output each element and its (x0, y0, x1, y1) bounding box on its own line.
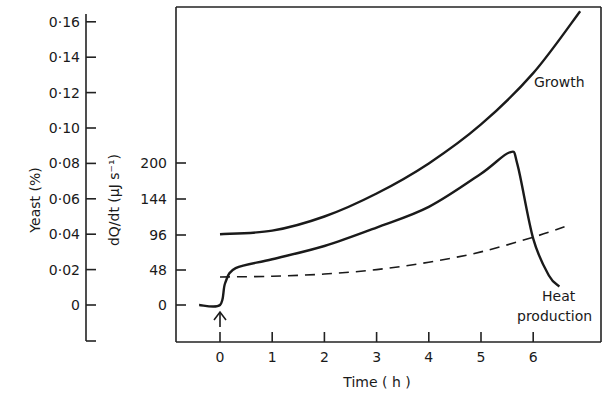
time-tick-label: 4 (424, 349, 433, 365)
time-tick-label: 1 (268, 349, 277, 365)
time-tick-label: 5 (477, 349, 486, 365)
time-tick-label: 2 (320, 349, 329, 365)
yeast-tick-label: 0·02 (49, 262, 80, 278)
yeast-tick-label: 0·16 (49, 14, 80, 30)
start-arrow-icon (214, 312, 226, 327)
time-tick-label: 0 (216, 349, 225, 365)
yeast-tick-label: 0·04 (49, 226, 80, 242)
time-axis: 0123456 (216, 332, 538, 365)
yeast-tick-label: 0·08 (49, 155, 80, 171)
yeast-tick-label: 0·14 (49, 49, 80, 65)
heat-axis-title: dQ/dt (μJ s⁻¹) (106, 154, 122, 246)
heat-axis: 20014496480 (140, 7, 186, 342)
time-tick-label: 3 (372, 349, 381, 365)
yeast-axis: 0·160·140·120·100·080·060·040·020 (49, 14, 96, 341)
time-tick-label: 6 (529, 349, 538, 365)
growth-label: Growth (534, 74, 585, 90)
dashed-curve (220, 227, 565, 277)
yeast-tick-label: 0·12 (49, 85, 80, 101)
heat-tick-label: 48 (149, 262, 167, 278)
yeast-tick-label: 0·06 (49, 191, 80, 207)
heat-tick-label: 0 (158, 297, 167, 313)
heat-production-curve (199, 152, 559, 307)
chart-figure: 0·160·140·120·100·080·060·040·020 Yeast … (0, 0, 611, 405)
yeast-tick-label: 0 (71, 297, 80, 313)
yeast-axis-title: Yeast (%) (27, 167, 43, 233)
heat-label-line1: Heat (542, 288, 576, 304)
heat-tick-label: 144 (140, 191, 167, 207)
heat-label-line2: production (517, 308, 592, 324)
heat-tick-label: 96 (149, 227, 167, 243)
yeast-tick-label: 0·10 (49, 120, 80, 136)
plot-frame (176, 7, 601, 342)
heat-tick-label: 200 (140, 155, 167, 171)
time-axis-title: Time ( h ) (342, 374, 410, 390)
